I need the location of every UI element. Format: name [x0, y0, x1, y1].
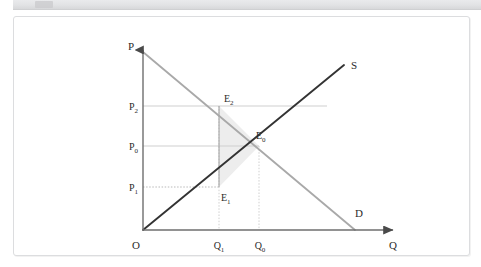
- toolbar-tab-placeholder[interactable]: [35, 1, 53, 8]
- price-tick-p0: P0: [129, 141, 139, 155]
- demand-curve-label: D: [355, 207, 363, 219]
- point-label-e1-sub: 1: [227, 198, 231, 206]
- point-label-e2-sub: 2: [230, 99, 234, 107]
- screenshot-root: P Q O P2 P0 P1: [0, 0, 481, 267]
- price-axis-label: P: [128, 40, 134, 52]
- quantity-tick-q1: Q1: [214, 240, 225, 254]
- content-card: P Q O P2 P0 P1: [13, 16, 470, 256]
- svg-text:P1: P1: [129, 182, 139, 196]
- svg-text:E1: E1: [221, 192, 231, 206]
- svg-text:P0: P0: [129, 141, 139, 155]
- point-label-e0: E0: [256, 130, 266, 144]
- svg-text:Q1: Q1: [214, 240, 225, 254]
- supply-curve: [143, 65, 344, 230]
- quantity-axis-label: Q: [389, 239, 397, 251]
- point-label-e2: E2: [224, 93, 234, 107]
- svg-text:P2: P2: [129, 101, 139, 115]
- quantity-tick-q0-sub: 0: [262, 246, 266, 254]
- quantity-tick-q1-sub: 1: [221, 246, 225, 254]
- supply-demand-chart: P Q O P2 P0 P1: [14, 17, 469, 255]
- origin-label: O: [132, 239, 140, 251]
- point-label-e0-sub: 0: [262, 136, 266, 144]
- quantity-tick-q0: Q0: [255, 240, 266, 254]
- svg-text:E2: E2: [224, 93, 234, 107]
- svg-text:Q0: Q0: [255, 240, 266, 254]
- svg-text:E0: E0: [256, 130, 266, 144]
- price-tick-p1: P1: [129, 182, 139, 196]
- price-tick-p2-sub: 2: [135, 107, 139, 115]
- price-tick-p1-sub: 1: [135, 188, 139, 196]
- supply-curve-label: S: [351, 59, 357, 71]
- browser-toolbar-strip: [13, 0, 481, 10]
- supply-demand-figure: P Q O P2 P0 P1: [14, 17, 469, 255]
- price-tick-p0-sub: 0: [135, 147, 139, 155]
- point-label-e1: E1: [221, 192, 231, 206]
- price-tick-p2: P2: [129, 101, 139, 115]
